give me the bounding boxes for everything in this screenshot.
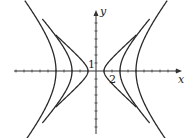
- hyperbola-plot: yx12: [0, 0, 192, 138]
- tick-label-1: 1: [88, 58, 95, 71]
- hyperbola-branch: [136, 1, 167, 138]
- hyperbola-branch: [25, 1, 56, 138]
- y-axis-label: y: [99, 5, 107, 18]
- x-axis-label: x: [178, 73, 185, 86]
- tick-label-2: 2: [109, 73, 116, 86]
